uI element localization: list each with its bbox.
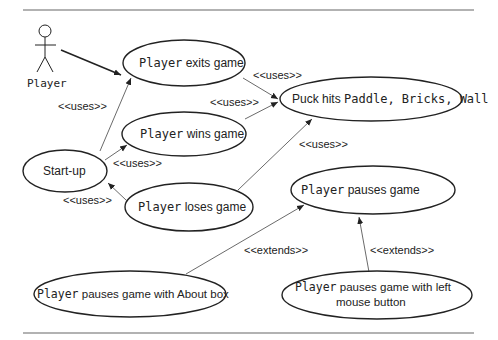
use-case-pauses-left-mouse: Player pauses game with left mouse butto… bbox=[282, 271, 472, 319]
label-uses-exits-puck: <<uses>> bbox=[253, 69, 302, 81]
use-case-diagram: Player <<uses>> <<uses>> <<uses>> <<uses… bbox=[0, 0, 498, 340]
assoc-player-exits bbox=[61, 50, 121, 75]
svg-text:Player pauses game: Player pauses game bbox=[301, 183, 420, 197]
use-case-pauses-about-box: Player pauses game with About box bbox=[34, 271, 229, 317]
use-case-player-exits-game: Player exits game bbox=[123, 40, 245, 86]
use-case-player-loses-game: Player loses game bbox=[125, 183, 253, 231]
label-uses-wins-puck: <<uses>> bbox=[210, 96, 259, 108]
actor-player bbox=[35, 25, 56, 72]
svg-text:mouse button: mouse button bbox=[336, 296, 406, 308]
label-uses-loses-puck: <<uses>> bbox=[299, 138, 348, 150]
svg-text:Start-up: Start-up bbox=[43, 164, 86, 178]
svg-text:Player pauses game with About: Player pauses game with About box bbox=[37, 287, 229, 301]
svg-text:Player loses game: Player loses game bbox=[138, 200, 246, 214]
label-extends-about: <<extends>> bbox=[244, 244, 308, 256]
use-case-start-up: Start-up bbox=[23, 150, 107, 192]
use-case-player-pauses-game: Player pauses game bbox=[291, 166, 455, 214]
extends-mouse-pauses bbox=[359, 217, 369, 272]
use-case-player-wins-game: Player wins game bbox=[122, 112, 246, 156]
label-uses-loses-startup: <<uses>> bbox=[63, 194, 112, 206]
svg-text:Puck hits Paddle, Bricks, Wall: Puck hits Paddle, Bricks, Wall bbox=[292, 92, 489, 106]
use-case-puck-hits: Puck hits Paddle, Bricks, Wall bbox=[280, 77, 489, 121]
svg-text:Player wins game: Player wins game bbox=[140, 127, 244, 141]
label-extends-mouse: <<extends>> bbox=[370, 244, 434, 256]
svg-text:Player pauses game with left: Player pauses game with left bbox=[295, 280, 452, 294]
svg-text:Player exits game: Player exits game bbox=[139, 56, 244, 70]
label-uses-startup-exits: <<uses>> bbox=[58, 100, 107, 112]
actor-label: Player bbox=[27, 77, 67, 90]
label-uses-startup-wins: <<uses>> bbox=[113, 157, 162, 169]
